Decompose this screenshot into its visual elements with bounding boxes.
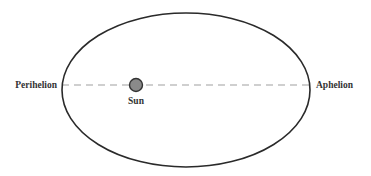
aphelion-label: Aphelion: [316, 80, 354, 90]
sun-icon: [130, 79, 143, 92]
sun-label: Sun: [128, 96, 145, 106]
elliptical-orbit: [62, 13, 310, 167]
perihelion-label: Perihelion: [15, 80, 57, 90]
orbit-diagram: Perihelion Aphelion Sun: [0, 0, 371, 176]
